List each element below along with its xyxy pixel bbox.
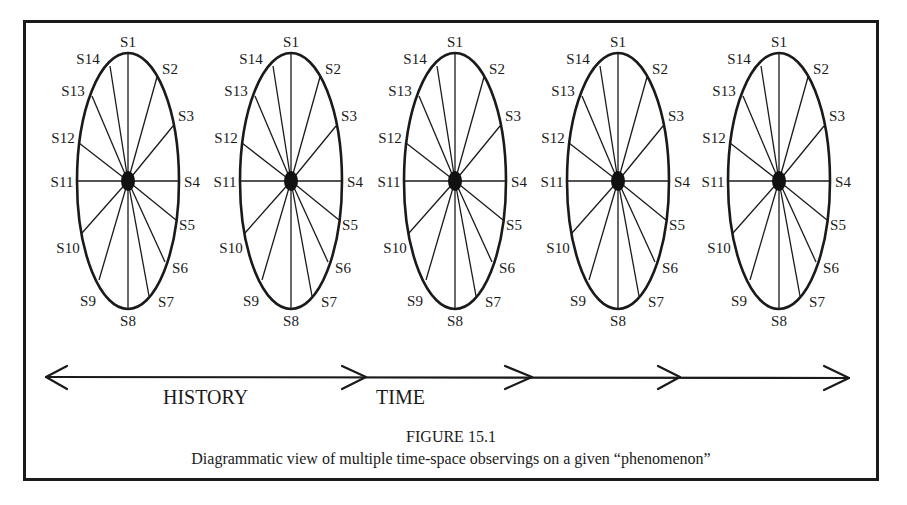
spoke: [618, 181, 639, 296]
observer-label: S3: [668, 108, 684, 124]
observer-label: S13: [224, 83, 247, 99]
timeline-line: [46, 377, 849, 378]
observer-label: S14: [239, 51, 263, 67]
spoke: [455, 181, 492, 262]
observer-label: S7: [321, 294, 337, 310]
observer-label: S13: [551, 83, 574, 99]
observer-label: S6: [499, 260, 515, 276]
observer-label: S14: [727, 51, 751, 67]
observer-label: S2: [813, 61, 829, 77]
observer-label: S1: [771, 34, 787, 50]
observer-label: S7: [809, 294, 825, 310]
observer-label: S13: [712, 83, 735, 99]
figure: S1S2S3S4S5S6S7S8S9S10S11S12S13S14S1S2S3S…: [0, 0, 907, 505]
phenomenon-hub: [121, 171, 135, 191]
observer-label: S3: [178, 108, 194, 124]
observer-label: S11: [214, 174, 237, 190]
spoke: [779, 77, 808, 181]
observer-label: S7: [485, 294, 501, 310]
spoke: [110, 66, 128, 181]
spoke: [582, 96, 618, 181]
spoke: [618, 181, 666, 220]
observer-label: S9: [731, 293, 747, 309]
phenomenon-hub: [772, 171, 786, 191]
observer-label: S6: [823, 260, 839, 276]
observer-label: S6: [172, 260, 188, 276]
spoke: [291, 126, 336, 181]
observer-label: S12: [51, 130, 74, 146]
spoke: [455, 181, 503, 220]
observer-label: S4: [511, 174, 527, 190]
spoke: [779, 181, 816, 262]
figure-number: FIGURE 15.1: [23, 428, 879, 446]
observer-label: S5: [830, 217, 846, 233]
observer-label: S8: [283, 313, 299, 329]
time-label: TIME: [376, 386, 425, 408]
spoke: [291, 181, 312, 296]
observer-label: S2: [652, 61, 668, 77]
spoke: [128, 181, 149, 296]
observer-label: S6: [335, 260, 351, 276]
observer-label: S3: [505, 108, 521, 124]
phenomenon-hub: [448, 171, 462, 191]
observer-label: S12: [378, 130, 401, 146]
spoke: [99, 181, 128, 280]
observer-label: S2: [162, 61, 178, 77]
observer-label: S4: [835, 174, 851, 190]
observer-label: S5: [669, 217, 685, 233]
observer-label: S10: [219, 240, 242, 256]
observer-label: S11: [541, 174, 564, 190]
spoke: [128, 77, 157, 181]
observer-label: S5: [506, 217, 522, 233]
observer-label: S3: [341, 108, 357, 124]
spoke: [291, 77, 320, 181]
observer-label: S9: [570, 293, 586, 309]
observer-label: S14: [403, 51, 427, 67]
observer-label: S2: [325, 61, 341, 77]
observer-label: S8: [120, 313, 136, 329]
observer-label: S8: [610, 313, 626, 329]
spoke: [743, 96, 779, 181]
spoke: [779, 126, 824, 181]
observer-wheel: S1S2S3S4S5S6S7S8S9S10S11S12S13S14: [51, 34, 201, 329]
observer-label: S4: [674, 174, 690, 190]
observer-label: S7: [158, 294, 174, 310]
phenomenon-hub: [611, 171, 625, 191]
spoke: [572, 181, 618, 233]
spoke: [291, 181, 339, 220]
spoke: [128, 181, 176, 220]
spoke: [618, 181, 655, 262]
observer-label: S6: [662, 260, 678, 276]
spoke: [618, 126, 663, 181]
observer-label: S1: [447, 34, 463, 50]
spoke: [92, 96, 128, 181]
observer-label: S12: [214, 130, 237, 146]
observer-label: S11: [702, 174, 725, 190]
observer-label: S13: [388, 83, 411, 99]
spoke: [761, 66, 779, 181]
spoke: [618, 77, 647, 181]
spoke: [779, 181, 827, 220]
observer-label: S1: [120, 34, 136, 50]
observer-label: S8: [447, 313, 463, 329]
observer-label: S12: [702, 130, 725, 146]
observer-label: S4: [184, 174, 200, 190]
observer-label: S11: [378, 174, 401, 190]
observer-label: S1: [283, 34, 299, 50]
spoke: [273, 66, 291, 181]
spoke: [255, 96, 291, 181]
observer-wheel: S1S2S3S4S5S6S7S8S9S10S11S12S13S14: [378, 34, 528, 329]
spoke: [262, 181, 291, 280]
spoke: [128, 126, 173, 181]
observer-wheel: S1S2S3S4S5S6S7S8S9S10S11S12S13S14: [214, 34, 364, 329]
observer-label: S13: [61, 83, 84, 99]
spoke: [455, 181, 476, 296]
spoke: [455, 77, 484, 181]
spoke: [426, 181, 455, 280]
spoke: [437, 66, 455, 181]
spoke: [291, 181, 328, 262]
spoke: [750, 181, 779, 280]
observer-label: S2: [489, 61, 505, 77]
observer-wheels: S1S2S3S4S5S6S7S8S9S10S11S12S13S14S1S2S3S…: [51, 34, 852, 329]
spoke: [409, 181, 455, 233]
